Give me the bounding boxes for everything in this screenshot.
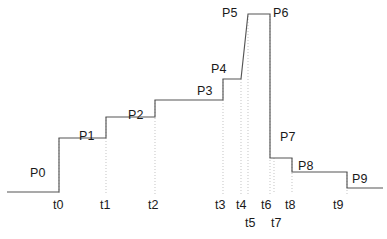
plateau-label-p2: P2 [128,109,144,122]
time-label-t0: t0 [53,199,64,212]
time-label-t8: t8 [285,199,296,212]
plateau-label-p9: P9 [352,173,368,186]
plateau-label-p4: P4 [211,63,227,76]
plateau-label-p5: P5 [222,7,238,20]
time-label-t5: t5 [245,217,256,230]
step-function-figure: P0P1P2P3P4P5P6P7P8P9 t0t1t2t3t4t5t6t7t8t… [0,0,387,239]
plateau-label-p6: P6 [273,7,289,20]
plateau-label-p8: P8 [298,160,314,173]
plateau-label-p0: P0 [30,167,46,180]
plateau-label-p3: P3 [197,85,213,98]
time-label-t1: t1 [100,199,111,212]
time-label-t9: t9 [333,199,344,212]
plateau-label-p7: P7 [280,131,296,144]
time-label-t2: t2 [148,199,159,212]
signal-step-path [7,14,383,192]
time-label-t3: t3 [215,199,226,212]
time-label-t6: t6 [261,199,272,212]
time-label-t4: t4 [236,199,247,212]
time-label-t7: t7 [271,217,282,230]
plateau-label-p1: P1 [79,130,95,143]
